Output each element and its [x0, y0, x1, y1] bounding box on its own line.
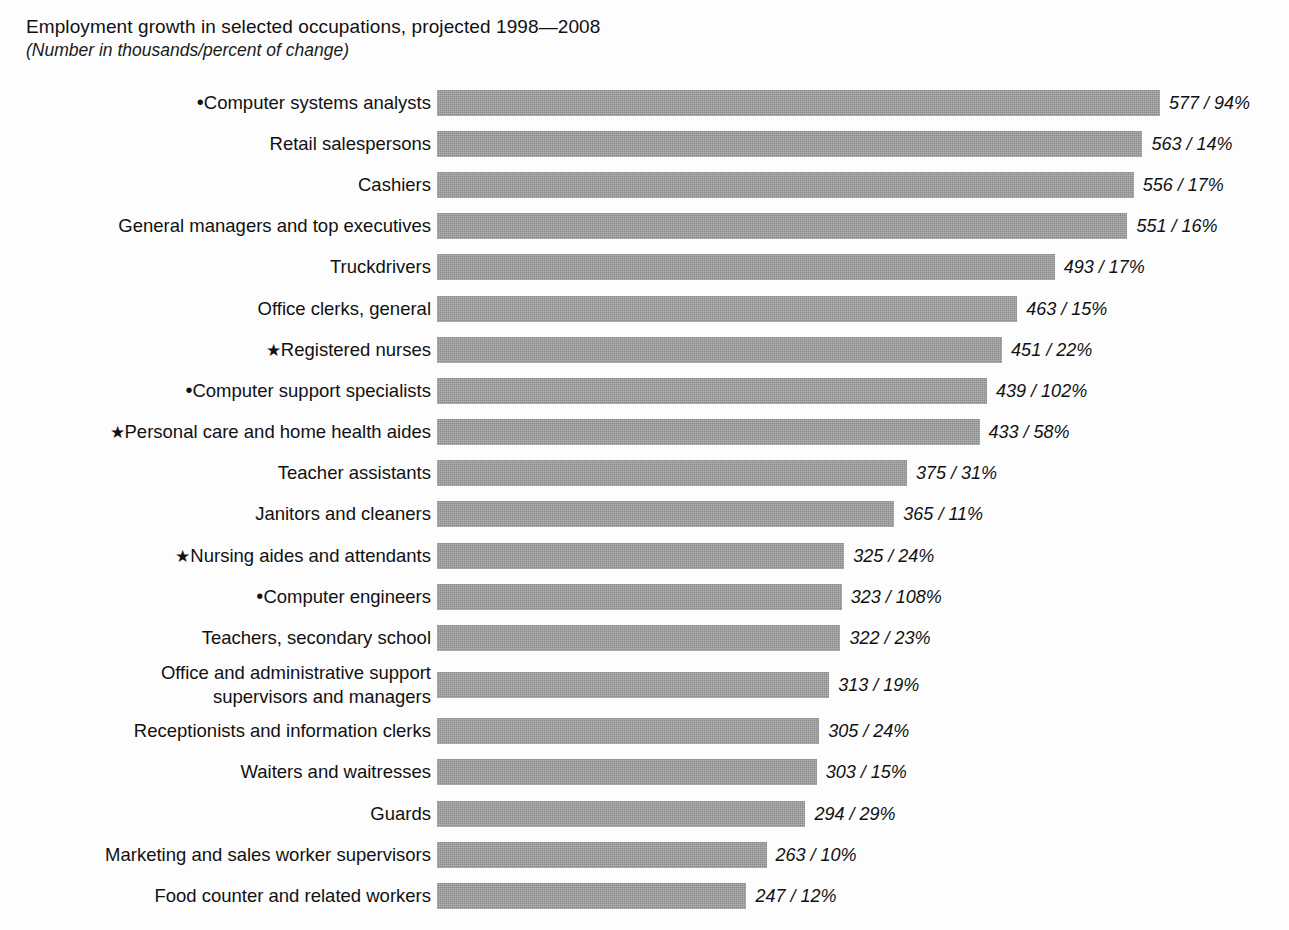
bar-track: 247 / 12% [437, 883, 746, 909]
bar-value-label: 322 / 23% [849, 628, 930, 649]
bar-row: •Computer support specialists439 / 102% [0, 370, 1289, 411]
bar-value-label: 365 / 11% [903, 504, 983, 525]
bar-row-label-text: Truckdrivers [330, 256, 431, 277]
bar-value-label: 551 / 16% [1136, 216, 1217, 237]
bar-row-label-text: Computer support specialists [192, 380, 431, 401]
bar-row-label-text: Waiters and waitresses [240, 761, 431, 782]
bar-row: Office clerks, general463 / 15% [0, 288, 1289, 329]
bar-value-label: 556 / 17% [1143, 174, 1224, 195]
bar-row-label: Office clerks, general [258, 297, 431, 321]
bar-row: Receptionists and information clerks305 … [0, 711, 1289, 752]
bar-row-label-text: Teachers, secondary school [202, 627, 431, 648]
bar-row-label: ★Nursing aides and attendants [175, 544, 431, 568]
bar-row-label: Teacher assistants [278, 461, 431, 485]
bar-track: 294 / 29% [437, 801, 805, 827]
bar [437, 131, 1142, 157]
bar-track: 451 / 22% [437, 337, 1002, 363]
bar-row: Cashiers556 / 17% [0, 164, 1289, 205]
bar-value-label: 577 / 94% [1169, 92, 1250, 113]
bar-row: ★Personal care and home health aides433 … [0, 412, 1289, 453]
bar-row-label: Teachers, secondary school [202, 626, 431, 650]
bar-track: 325 / 24% [437, 543, 844, 569]
bar-row: ★Nursing aides and attendants325 / 24% [0, 535, 1289, 576]
bar [437, 501, 894, 527]
bar-row: Teachers, secondary school322 / 23% [0, 617, 1289, 658]
bar-row-label: ★Personal care and home health aides [110, 420, 431, 444]
bar-row-label: Cashiers [358, 173, 431, 197]
bar-track: 322 / 23% [437, 625, 840, 651]
bar-row-label: ★Registered nurses [266, 338, 431, 362]
bar-track: 463 / 15% [437, 296, 1017, 322]
bar-value-label: 323 / 108% [851, 586, 942, 607]
star-icon: ★ [266, 341, 281, 360]
bar-track: 263 / 10% [437, 842, 767, 868]
bar-row: Truckdrivers493 / 17% [0, 247, 1289, 288]
dot-icon: • [256, 585, 263, 607]
bar [437, 172, 1134, 198]
bar-row-label: Truckdrivers [330, 255, 431, 279]
bar [437, 460, 907, 486]
bar-value-label: 263 / 10% [776, 844, 857, 865]
bar-row-label-text: Office clerks, general [258, 298, 431, 319]
bar-row-label: Guards [370, 802, 431, 826]
bar [437, 718, 819, 744]
dot-icon: • [185, 379, 192, 401]
bar-track: 305 / 24% [437, 718, 819, 744]
bar-value-label: 563 / 14% [1151, 133, 1232, 154]
chart-title: Employment growth in selected occupation… [26, 14, 1026, 39]
bar-row-label: Receptionists and information clerks [134, 719, 431, 743]
bar-row-label-text: Cashiers [358, 174, 431, 195]
bar-track: 313 / 19% [437, 672, 829, 698]
bar [437, 90, 1160, 116]
bar-value-label: 325 / 24% [853, 545, 934, 566]
bar-row: Food counter and related workers247 / 12… [0, 875, 1289, 916]
bar-value-label: 375 / 31% [916, 463, 997, 484]
bar-row: General managers and top executives551 /… [0, 206, 1289, 247]
star-icon: ★ [110, 423, 125, 442]
bar [437, 213, 1127, 239]
bar-row-label-text: Guards [370, 803, 431, 824]
bar-value-label: 451 / 22% [1011, 339, 1092, 360]
bar-row-label: Marketing and sales worker supervisors [105, 843, 431, 867]
bar-row-label-text: Registered nurses [281, 339, 431, 360]
bar-value-label: 463 / 15% [1026, 298, 1107, 319]
chart-page: Employment growth in selected occupation… [0, 0, 1289, 930]
bar-track: 439 / 102% [437, 378, 987, 404]
bar-track: 303 / 15% [437, 759, 817, 785]
bar-row-label: •Computer systems analysts [197, 91, 431, 115]
bar-row-label: Janitors and cleaners [255, 502, 431, 526]
bar-row-label-text: Computer engineers [263, 586, 431, 607]
bar-row-label-text: Computer systems analysts [204, 92, 431, 113]
bar-value-label: 294 / 29% [814, 803, 895, 824]
bar-row-label-text: Teacher assistants [278, 462, 431, 483]
bar-value-label: 439 / 102% [996, 380, 1087, 401]
bar-track: 493 / 17% [437, 254, 1055, 280]
bar-value-label: 305 / 24% [828, 721, 909, 742]
bar-row: Office and administrative support superv… [0, 659, 1289, 711]
bar-value-label: 247 / 12% [755, 885, 836, 906]
bar [437, 625, 840, 651]
bar-row: Retail salespersons563 / 14% [0, 123, 1289, 164]
bar-row-label: Retail salespersons [270, 132, 431, 156]
bar [437, 378, 987, 404]
bar-row-label: •Computer engineers [256, 585, 431, 609]
bar-row-label-text: Office and administrative support superv… [161, 662, 431, 707]
bar-track: 577 / 94% [437, 90, 1160, 116]
bar-row: Janitors and cleaners365 / 11% [0, 494, 1289, 535]
star-icon: ★ [175, 547, 190, 566]
bar-row-label: Office and administrative support superv… [161, 661, 431, 709]
bar-value-label: 303 / 15% [826, 762, 907, 783]
bar-track: 375 / 31% [437, 460, 907, 486]
bar [437, 543, 844, 569]
bar-row: Waiters and waitresses303 / 15% [0, 752, 1289, 793]
bar [437, 419, 980, 445]
dot-icon: • [197, 91, 204, 113]
bar-track: 563 / 14% [437, 131, 1142, 157]
bar-value-label: 493 / 17% [1064, 257, 1145, 278]
bar-row-label: •Computer support specialists [185, 379, 431, 403]
bar-row-label: Food counter and related workers [154, 884, 431, 908]
bar-row-label-text: General managers and top executives [118, 215, 431, 236]
bar-track: 551 / 16% [437, 213, 1127, 239]
bar-value-label: 313 / 19% [838, 674, 919, 695]
bar-row: Marketing and sales worker supervisors26… [0, 834, 1289, 875]
